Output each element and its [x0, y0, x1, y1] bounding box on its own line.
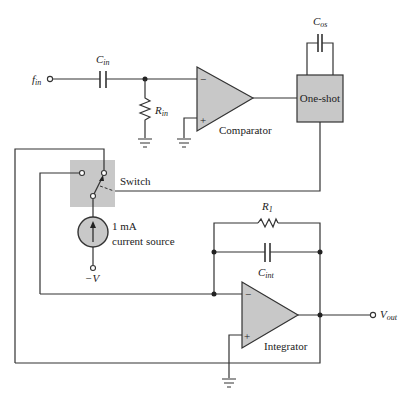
- switch-terminal-common: [91, 194, 96, 199]
- switch-terminal-b: [102, 171, 107, 176]
- input-resistor: [140, 79, 150, 138]
- feedback-resistor-label: R1: [261, 200, 273, 214]
- ground-icon: [177, 139, 191, 147]
- integrator-capacitor: [265, 243, 270, 262]
- current-source-value: 1 mA: [112, 220, 137, 232]
- integrator-capacitor-label: Cint: [258, 266, 275, 280]
- integrator-plus-wire: [229, 335, 242, 378]
- input-terminal: [47, 76, 52, 81]
- junction-dot: [318, 313, 323, 318]
- comparator-label: Comparator: [219, 124, 272, 136]
- integrator-minus: −: [245, 288, 251, 300]
- output-terminal: [370, 312, 375, 317]
- switch-label: Switch: [120, 175, 151, 187]
- output-terminal-label: Vout: [380, 308, 398, 322]
- ground-icon: [138, 139, 152, 147]
- current-source-label: current source: [112, 235, 175, 247]
- comparator-minus: −: [200, 73, 206, 85]
- current-source: [78, 217, 108, 247]
- circuit-diagram: fin Cin Rin − + Comparator One-shot Cos: [0, 0, 414, 398]
- one-shot-capacitor: [318, 34, 322, 52]
- input-capacitor-label: Cin: [96, 53, 110, 67]
- input-capacitor: [100, 71, 106, 88]
- comparator-plus-wire: [184, 118, 197, 138]
- one-shot-label: One-shot: [300, 92, 340, 104]
- junction-dot: [318, 250, 323, 255]
- one-shot-capacitor-label: Cos: [313, 15, 327, 29]
- neg-supply-terminal: [91, 266, 96, 271]
- integrator-label: Integrator: [264, 340, 308, 352]
- one-shot-cap-wire: [307, 43, 333, 75]
- feedback-resistor: [258, 219, 278, 227]
- ground-icon: [222, 379, 236, 387]
- neg-supply-label: −V: [85, 272, 100, 284]
- switch-terminal-a: [80, 171, 85, 176]
- input-terminal-label: fin: [32, 73, 41, 87]
- comparator-plus: +: [200, 114, 206, 126]
- integrator-plus: +: [244, 330, 250, 342]
- junction-dot: [212, 292, 217, 297]
- junction-dot: [212, 250, 217, 255]
- input-resistor-label: Rin: [154, 104, 168, 118]
